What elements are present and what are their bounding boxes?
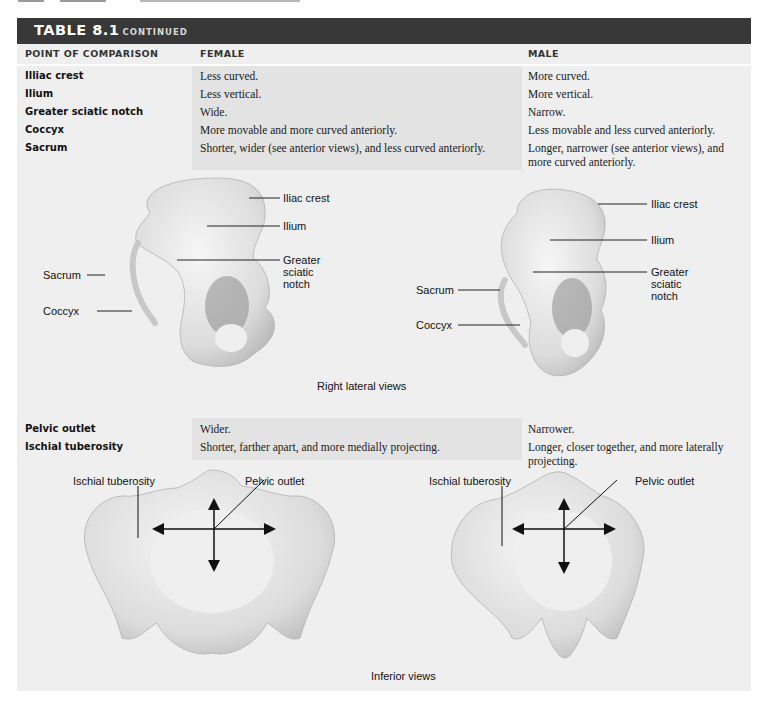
label-pelvic-outlet-female: Pelvic outlet	[245, 475, 304, 487]
caption-right-lateral-views: Right lateral views	[317, 380, 406, 392]
row-male: Narrower.	[528, 422, 748, 436]
row-point: Ischial tuberosity	[25, 440, 175, 454]
label-sacrum-male: Sacrum	[416, 284, 454, 296]
row-female: Wider.	[200, 422, 540, 436]
table-row: Ischial tuberosity Shorter, farther apar…	[17, 440, 751, 456]
label-coccyx-female: Coccyx	[43, 305, 79, 317]
table-panel: TABLE 8.1CONTINUED POINT OF COMPARISON F…	[17, 18, 751, 691]
pelvis-illustrations	[17, 18, 751, 691]
row-male: Longer, closer together, and more latera…	[528, 440, 748, 468]
label-ilium-male: Ilium	[651, 234, 674, 246]
label-iliac-crest-female: Iliac crest	[283, 192, 329, 204]
label-ischial-tuberosity-male: Ischial tuberosity	[429, 475, 511, 487]
caption-inferior-views: Inferior views	[371, 670, 436, 682]
label-coccyx-male: Coccyx	[416, 319, 452, 331]
row-point: Pelvic outlet	[25, 422, 175, 436]
label-greater-sciatic-notch-female: Greater sciatic notch	[283, 254, 320, 290]
male-inferior-pelvis	[451, 472, 644, 658]
male-lateral-hip-bone	[501, 189, 606, 376]
table-row: Pelvic outlet Wider. Narrower.	[17, 422, 751, 438]
row-female: Shorter, farther apart, and more mediall…	[200, 440, 540, 454]
label-sacrum-female: Sacrum	[43, 269, 81, 281]
label-greater-sciatic-notch-male: Greater sciatic notch	[651, 266, 688, 302]
label-pelvic-outlet-male: Pelvic outlet	[635, 475, 694, 487]
female-lateral-hip-bone	[133, 178, 275, 366]
label-ilium-female: Ilium	[283, 220, 306, 232]
female-inferior-pelvis	[84, 470, 334, 654]
running-header-clipped	[10, 0, 300, 3]
label-ischial-tuberosity-female: Ischial tuberosity	[73, 475, 155, 487]
label-iliac-crest-male: Iliac crest	[651, 198, 697, 210]
